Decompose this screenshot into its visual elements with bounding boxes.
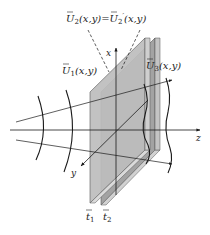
label-axis-y: y — [70, 168, 77, 178]
label-t1: t1 — [86, 210, 95, 224]
svg-text:U1(x,y): U1(x,y) — [62, 65, 97, 78]
wavefronts-incident — [36, 90, 73, 172]
optical-system-diagram: U2(x,y)=U2′(x,y) U1(x,y) U3(x,y) x y z t… — [0, 0, 210, 235]
label-u3: U3(x,y) — [146, 59, 181, 73]
label-u1: U1(x,y) — [62, 64, 97, 78]
svg-text:t1: t1 — [86, 211, 95, 224]
label-t2: t2 — [103, 210, 112, 224]
transparency-plate-t1 — [90, 38, 150, 203]
label-u2-equation: U2(x,y)=U2′(x,y) — [66, 12, 146, 26]
label-axis-z: z — [195, 133, 201, 143]
svg-text:t2: t2 — [103, 211, 112, 224]
svg-text:U2(x,y)=U2′(x,y): U2(x,y)=U2′(x,y) — [66, 12, 146, 26]
label-axis-x: x — [106, 48, 111, 58]
